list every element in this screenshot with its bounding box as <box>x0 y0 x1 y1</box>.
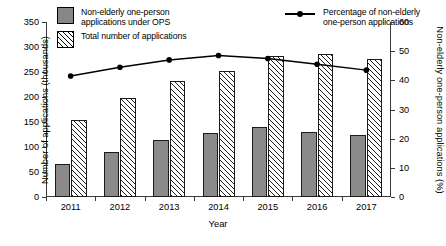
y-axis-left-tick-label: 100 <box>24 142 39 152</box>
y-axis-right-tick <box>391 110 395 111</box>
y-axis-right-tick-label: 30 <box>399 105 409 115</box>
percentage-marker <box>166 57 172 63</box>
x-axis-tick-label: 2012 <box>110 202 131 212</box>
x-axis-tick <box>95 197 96 201</box>
percentage-marker <box>68 73 74 79</box>
y-axis-left-tick-label: 0 <box>34 192 39 202</box>
y-axis-right-tick-label: 0 <box>399 192 404 202</box>
x-axis-tick-label: 2017 <box>356 202 377 212</box>
percentage-marker <box>265 56 271 62</box>
legend-line-marker-icon <box>285 7 315 21</box>
x-axis-tick-label: 2015 <box>257 202 278 212</box>
y-axis-right-title: Non-elderly one-person applications (%) <box>435 26 446 193</box>
y-axis-right-tick <box>391 168 395 169</box>
y-axis-left-tick-label: 350 <box>24 17 39 27</box>
percentage-marker <box>117 64 123 70</box>
y-axis-right-tick-label: 10 <box>399 163 409 173</box>
y-axis-right-tick <box>391 197 395 198</box>
x-axis-tick <box>194 197 195 201</box>
percentage-marker <box>364 67 370 73</box>
y-axis-left-tick-label: 250 <box>24 67 39 77</box>
y-axis-right-tick <box>391 139 395 140</box>
plot-area: 050100150200250300350 0102030405060 2011… <box>46 22 391 197</box>
x-axis-title: Year <box>209 218 228 229</box>
y-axis-right-tick <box>391 51 395 52</box>
x-axis-tick <box>243 197 244 201</box>
chart-container: Non-elderly one-person applications unde… <box>0 0 446 246</box>
y-axis-left-tick-label: 200 <box>24 92 39 102</box>
x-axis-tick-label: 2011 <box>61 202 81 212</box>
x-axis-tick <box>46 197 47 201</box>
x-axis-tick <box>145 197 146 201</box>
percentage-marker <box>314 61 320 67</box>
x-axis-tick-label: 2016 <box>307 202 328 212</box>
y-axis-right-tick <box>391 80 395 81</box>
percentage-marker <box>216 53 222 59</box>
x-axis-tick-label: 2014 <box>208 202 229 212</box>
y-axis-left-title: Number of applications (thousands) <box>39 36 50 184</box>
y-axis-right-tick-label: 50 <box>399 46 409 56</box>
percentage-line <box>71 56 367 76</box>
y-axis-left-tick-label: 150 <box>24 117 39 127</box>
x-axis-tick <box>292 197 293 201</box>
y-axis-right-tick-label: 60 <box>399 17 409 27</box>
y-axis-right-tick <box>391 22 395 23</box>
y-axis-left-tick-label: 300 <box>24 42 39 52</box>
y-axis-right-tick-label: 20 <box>399 134 409 144</box>
x-axis-tick-label: 2013 <box>159 202 180 212</box>
x-axis-tick <box>342 197 343 201</box>
y-axis-right-tick-label: 40 <box>399 75 409 85</box>
y-axis-left-tick-label: 50 <box>29 167 39 177</box>
line-series-group <box>46 22 391 197</box>
